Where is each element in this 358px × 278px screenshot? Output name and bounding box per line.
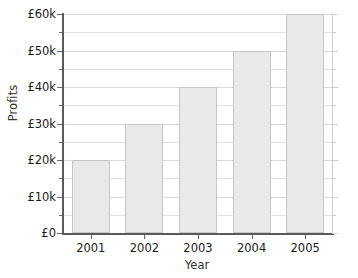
y-axis-tick-label: £60k: [4, 7, 56, 21]
y-axis-tick-minor: [59, 32, 62, 33]
y-axis-tick-minor: [59, 142, 62, 143]
x-axis-tick-label: 2001: [61, 241, 121, 255]
bar: [125, 124, 163, 234]
x-axis-tick: [91, 235, 92, 239]
right-axis-tick: [333, 160, 338, 161]
right-axis-tick: [333, 14, 338, 15]
right-axis-tick-minor: [333, 142, 336, 143]
y-axis-tick-minor: [59, 105, 62, 106]
y-axis-line: [62, 13, 64, 235]
y-axis-tick: [57, 14, 62, 15]
right-axis-tick: [333, 87, 338, 88]
y-axis-tick-label: £50k: [4, 44, 56, 58]
x-axis-tick: [305, 235, 306, 239]
x-axis-tick: [252, 235, 253, 239]
right-axis-tick: [333, 233, 338, 234]
y-axis-tick-minor: [59, 215, 62, 216]
y-axis-tick: [57, 160, 62, 161]
plot-area: [64, 14, 332, 233]
x-axis-tick-label: 2003: [168, 241, 228, 255]
y-axis-tick: [57, 197, 62, 198]
right-axis-tick-minor: [333, 178, 336, 179]
y-axis-tick-label: £30k: [4, 117, 56, 131]
right-axis-tick-minor: [333, 32, 336, 33]
y-axis-tick: [57, 87, 62, 88]
y-axis-tick-label: £40k: [4, 80, 56, 94]
y-axis-tick-label: £10k: [4, 190, 56, 204]
x-axis-title: Year: [64, 258, 330, 272]
x-axis-tick-label: 2002: [114, 241, 174, 255]
right-axis-tick-minor: [333, 69, 336, 70]
y-axis-tick-labels: £0£10k£20k£30k£40k£50k£60k: [0, 0, 56, 278]
right-axis-tick: [333, 124, 338, 125]
bar: [233, 51, 271, 234]
y-axis-tick: [57, 51, 62, 52]
x-axis-tick-label: 2005: [275, 241, 335, 255]
right-axis-tick-minor: [333, 105, 336, 106]
y-axis-tick-minor: [59, 69, 62, 70]
y-axis-tick-minor: [59, 178, 62, 179]
bar-chart: Profits £0£10k£20k£30k£40k£50k£60k 20012…: [0, 0, 358, 278]
y-axis-tick-label: £0: [4, 226, 56, 240]
y-axis-tick: [57, 233, 62, 234]
x-axis-tick-label: 2004: [222, 241, 282, 255]
y-axis-tick-label: £20k: [4, 153, 56, 167]
bar: [179, 87, 217, 233]
x-axis-tick: [144, 235, 145, 239]
bar: [72, 160, 110, 233]
x-axis-tick: [198, 235, 199, 239]
bar: [286, 14, 324, 233]
right-axis-tick-minor: [333, 215, 336, 216]
y-axis-tick: [57, 124, 62, 125]
right-axis-tick: [333, 197, 338, 198]
right-axis-tick: [333, 51, 338, 52]
